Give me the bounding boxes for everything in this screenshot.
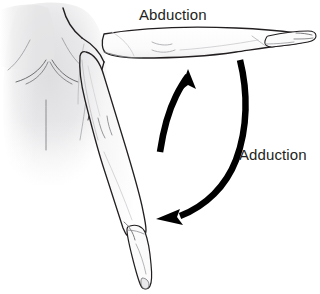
- abduction-arrow: [160, 69, 196, 152]
- adduction-arrow: [156, 60, 246, 225]
- adduction-arrow-head: [156, 209, 183, 225]
- torso-fade-left: [0, 0, 60, 200]
- adduction-label: Adduction: [239, 147, 307, 162]
- adducted-hand: [127, 225, 152, 289]
- abducted-arm: [102, 27, 316, 58]
- anatomy-figure: Abduction Adduction: [0, 0, 320, 294]
- abduction-label: Abduction: [139, 7, 207, 22]
